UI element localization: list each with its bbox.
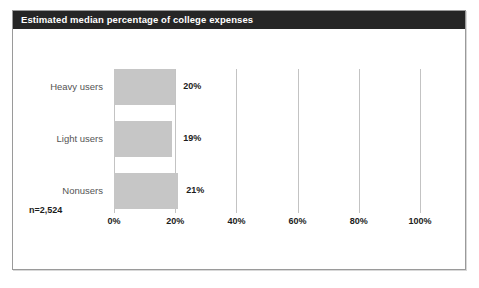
category-label-nonusers: Nonusers (13, 185, 103, 196)
x-tick-label: 20% (166, 216, 184, 226)
chart-title-bar: Estimated median percentage of college e… (13, 11, 465, 29)
category-label-heavy-users: Heavy users (13, 81, 103, 92)
bar-value-label: 19% (183, 133, 201, 143)
chart-figure: Estimated median percentage of college e… (12, 10, 466, 270)
bar-heavy-users (114, 69, 175, 105)
category-label-light-users: Light users (13, 133, 103, 144)
bar-row: Heavy users20% (13, 69, 465, 105)
bar-row: Light users19% (13, 121, 465, 157)
x-tick-label: 0% (107, 216, 120, 226)
x-tick-label: 40% (227, 216, 245, 226)
bar-value-label: 21% (186, 185, 204, 195)
bar-value-label: 20% (183, 81, 201, 91)
x-axis: 0%20%40%60%80%100% (13, 213, 465, 235)
bar-row: Nonusers21% (13, 173, 465, 209)
plot-area: Heavy users20%Light users19%Nonusers21% … (13, 29, 465, 271)
bar-light-users (114, 121, 172, 157)
x-tick-label: 100% (408, 216, 431, 226)
x-tick-label: 60% (289, 216, 307, 226)
page-title: Estimated median percentage of college e… (21, 14, 253, 25)
x-tick-label: 80% (350, 216, 368, 226)
bar-nonusers (114, 173, 178, 209)
